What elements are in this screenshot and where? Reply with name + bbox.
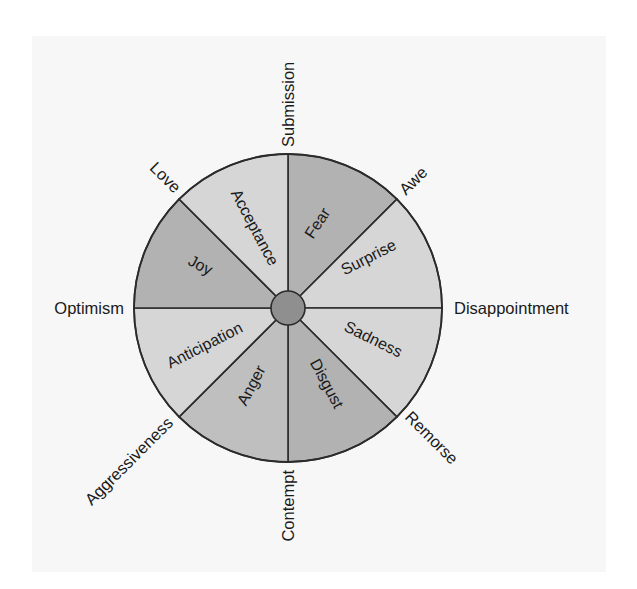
emotion-wheel-diagram: Fear Surprise Sadness Disgust Anger Anti…	[0, 0, 637, 589]
wheel-hub	[271, 291, 305, 325]
label-submission: Submission	[279, 62, 297, 147]
label-awe: Awe	[395, 163, 430, 198]
label-contempt: Contempt	[279, 470, 297, 542]
label-aggressiveness: Aggressiveness	[81, 413, 176, 508]
label-remorse: Remorse	[402, 407, 462, 467]
label-love: Love	[147, 158, 185, 196]
label-optimism: Optimism	[54, 299, 124, 317]
label-disappointment: Disappointment	[454, 299, 569, 317]
